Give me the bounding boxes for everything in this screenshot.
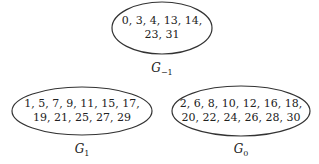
members-line-2: 19, 21, 25, 27, 29 [12,111,152,125]
set-label-g-minus-1: G−1 [142,61,182,77]
label-letter: G [75,142,85,156]
set-label-g-0: G0 [221,142,261,158]
set-label-g-1: G1 [62,142,102,158]
members-line-1: 1, 5, 7, 9, 11, 15, 17, [12,97,152,111]
members-line-2: 23, 31 [112,28,212,42]
set-members-g-minus-1: 0, 3, 4, 13, 14, 23, 31 [112,14,212,42]
label-letter: G [151,61,161,75]
members-line-1: 2, 6, 8, 10, 12, 16, 18, [172,97,310,111]
members-line-2: 20, 22, 24, 26, 28, 30 [172,111,310,125]
label-subscript: −1 [161,68,173,77]
label-subscript: 1 [84,149,89,158]
set-members-g-0: 2, 6, 8, 10, 12, 16, 18, 20, 22, 24, 26,… [172,97,310,125]
members-line-1: 0, 3, 4, 13, 14, [112,14,212,28]
set-members-g-1: 1, 5, 7, 9, 11, 15, 17, 19, 21, 25, 27, … [12,97,152,125]
label-subscript: 0 [243,149,248,158]
label-letter: G [234,142,244,156]
